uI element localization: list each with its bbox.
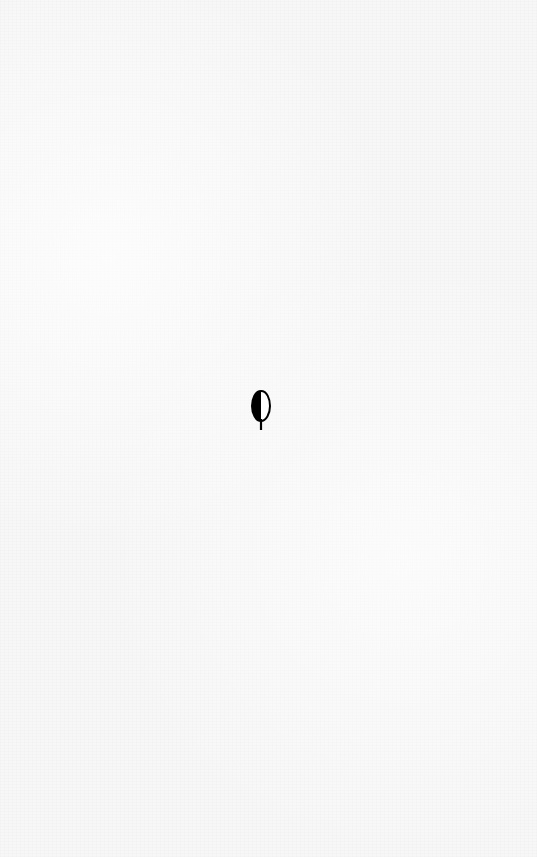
leaf-icon bbox=[250, 389, 272, 431]
app-logo bbox=[250, 389, 272, 431]
splash-screen bbox=[0, 0, 537, 857]
